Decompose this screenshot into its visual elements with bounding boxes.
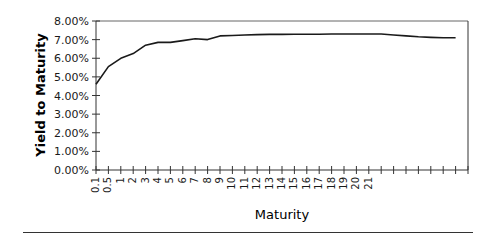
x-tick-label: 2 [127,177,138,183]
x-tick-label: 10 [226,177,237,190]
y-tick-label: 6.00% [54,52,89,65]
x-tick-label: 8 [202,177,213,183]
x-tick-label: 16 [301,177,312,190]
x-tick-label: 0.1 [90,177,101,193]
x-tick-label: 15 [288,177,299,190]
x-tick-label: 18 [326,177,337,190]
x-tick-label: 13 [264,177,275,190]
x-tick-label: 9 [214,177,225,183]
x-tick-label: 1 [115,177,126,183]
x-tick-label: 21 [363,177,374,190]
x-tick-label: 4 [152,177,163,183]
x-tick-label: 19 [338,177,349,190]
x-tick-label: 20 [350,177,361,190]
x-tick-label: 5 [164,177,175,183]
x-axis-title: Maturity [255,207,310,222]
y-tick-label: 4.00% [54,90,89,103]
x-tick-label: 7 [189,177,200,183]
x-tick-label: 12 [251,177,262,190]
y-tick-label: 3.00% [54,108,89,121]
yield-curve-chart: 0.00%1.00%2.00%3.00%4.00%5.00%6.00%7.00%… [0,0,495,240]
y-tick-label: 8.00% [54,15,89,28]
x-tick-label: 6 [177,177,188,183]
x-tick-label: 3 [140,177,151,183]
y-tick-label: 2.00% [54,127,89,140]
x-axis: 0.10.5123456789101112131415161718192021 [90,166,468,193]
y-axis-title: Yield to Maturity [33,33,48,158]
x-tick-label: 11 [239,177,250,190]
y-tick-label: 0.00% [54,164,89,177]
x-tick-label: 0.5 [102,177,113,193]
y-axis: 0.00%1.00%2.00%3.00%4.00%5.00%6.00%7.00%… [54,15,100,177]
bottom-divider [23,232,473,233]
y-tick-label: 7.00% [54,34,89,47]
y-tick-label: 5.00% [54,71,89,84]
x-tick-label: 14 [276,177,287,190]
yield-line-series [96,34,456,84]
x-tick-label: 17 [313,177,324,190]
y-tick-label: 1.00% [54,145,89,158]
yield-line [96,34,456,84]
